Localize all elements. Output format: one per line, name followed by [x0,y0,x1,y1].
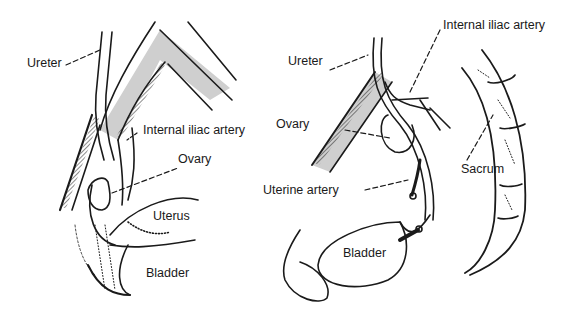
label-right-ovary: Ovary [276,118,309,131]
label-right-internal-iliac-artery: Internal iliac artery [443,19,545,32]
label-left-ovary: Ovary [178,153,211,166]
label-right-bladder: Bladder [343,247,386,260]
label-right-ureter: Ureter [288,55,323,68]
label-left-ureter: Ureter [27,57,62,70]
label-right-sacrum: Sacrum [461,163,504,176]
label-right-uterine-artery: Uterine artery [263,184,339,197]
label-left-uterus: Uterus [153,210,190,223]
anatomy-figure: Ureter Internal iliac artery Ovary Uteru… [0,0,571,324]
label-left-internal-iliac-artery: Internal iliac artery [143,124,245,137]
label-left-bladder: Bladder [146,267,189,280]
